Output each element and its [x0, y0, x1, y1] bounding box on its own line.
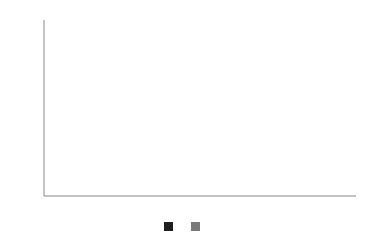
legend — [0, 221, 368, 233]
legend-swatch-mnc — [164, 222, 173, 231]
legend-item-domestic — [191, 222, 204, 231]
legend-item-mnc — [164, 222, 177, 231]
legend-swatch-domestic — [191, 222, 200, 231]
stacked-bar-chart — [0, 0, 368, 246]
axes — [0, 0, 368, 246]
